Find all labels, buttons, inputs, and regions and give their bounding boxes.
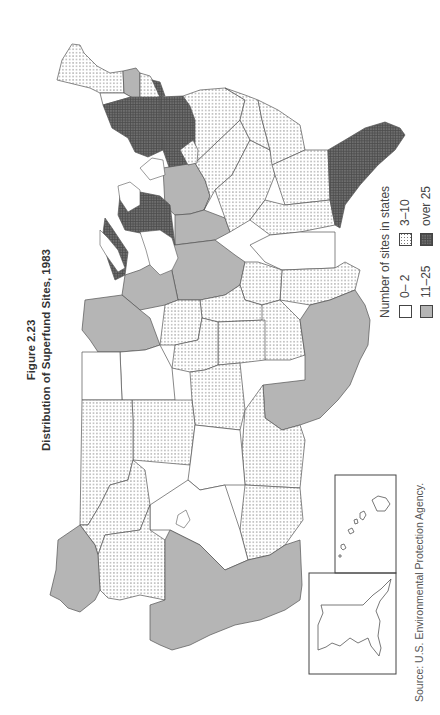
state-oklahoma xyxy=(262,300,305,360)
alaska-outline xyxy=(318,579,391,656)
legend-label: 3–10 xyxy=(398,199,412,226)
state-maine xyxy=(57,44,124,93)
state-wyoming xyxy=(132,400,195,465)
swatch-over-25 xyxy=(420,233,433,246)
figure-number: Figure 2.23 xyxy=(24,230,39,470)
figure-title: Distribution of Superfund Sites, 1983 xyxy=(39,230,54,470)
legend-label: 11–25 xyxy=(419,266,433,298)
figure-title-block: Figure 2.23 Distribution of Superfund Si… xyxy=(24,230,54,470)
state-new-york xyxy=(103,97,165,157)
insets-layer xyxy=(309,475,396,674)
superfund-map xyxy=(0,0,440,715)
legend-row-1: 0– 2 3–10 xyxy=(396,168,414,318)
legend-item-0-2: 0– 2 xyxy=(398,246,412,318)
source-note: Source: U.S. Environmental Protection Ag… xyxy=(413,483,425,702)
state-utah xyxy=(188,425,245,490)
legend: Number of sites in states 0– 2 3–10 11–2… xyxy=(378,168,435,318)
legend-item-over-25: over 25 xyxy=(419,174,433,246)
swatch-0-2 xyxy=(399,305,412,318)
swatch-11-25 xyxy=(420,305,433,318)
lake-lake-erie xyxy=(140,158,165,180)
state-alabama xyxy=(250,200,335,235)
states-layer xyxy=(50,44,405,650)
state-south-dakota xyxy=(120,345,175,400)
state-arkansas xyxy=(240,262,282,305)
legend-heading: Number of sites in states xyxy=(378,168,393,318)
legend-row-2: 11–25 over 25 xyxy=(417,168,435,318)
legend-label: over 25 xyxy=(419,186,433,226)
hawaii-inset-box xyxy=(335,475,396,573)
hawaii-islands xyxy=(339,496,390,557)
legend-item-3-10: 3–10 xyxy=(398,174,412,246)
state-north-dakota xyxy=(82,352,122,400)
state-kansas xyxy=(218,320,265,365)
state-colorado xyxy=(190,363,245,430)
state-iowa xyxy=(160,300,202,345)
legend-item-11-25: 11–25 xyxy=(419,246,433,318)
legend-label: 0– 2 xyxy=(398,275,412,298)
swatch-3-10 xyxy=(399,233,412,246)
state-indiana xyxy=(175,210,230,245)
